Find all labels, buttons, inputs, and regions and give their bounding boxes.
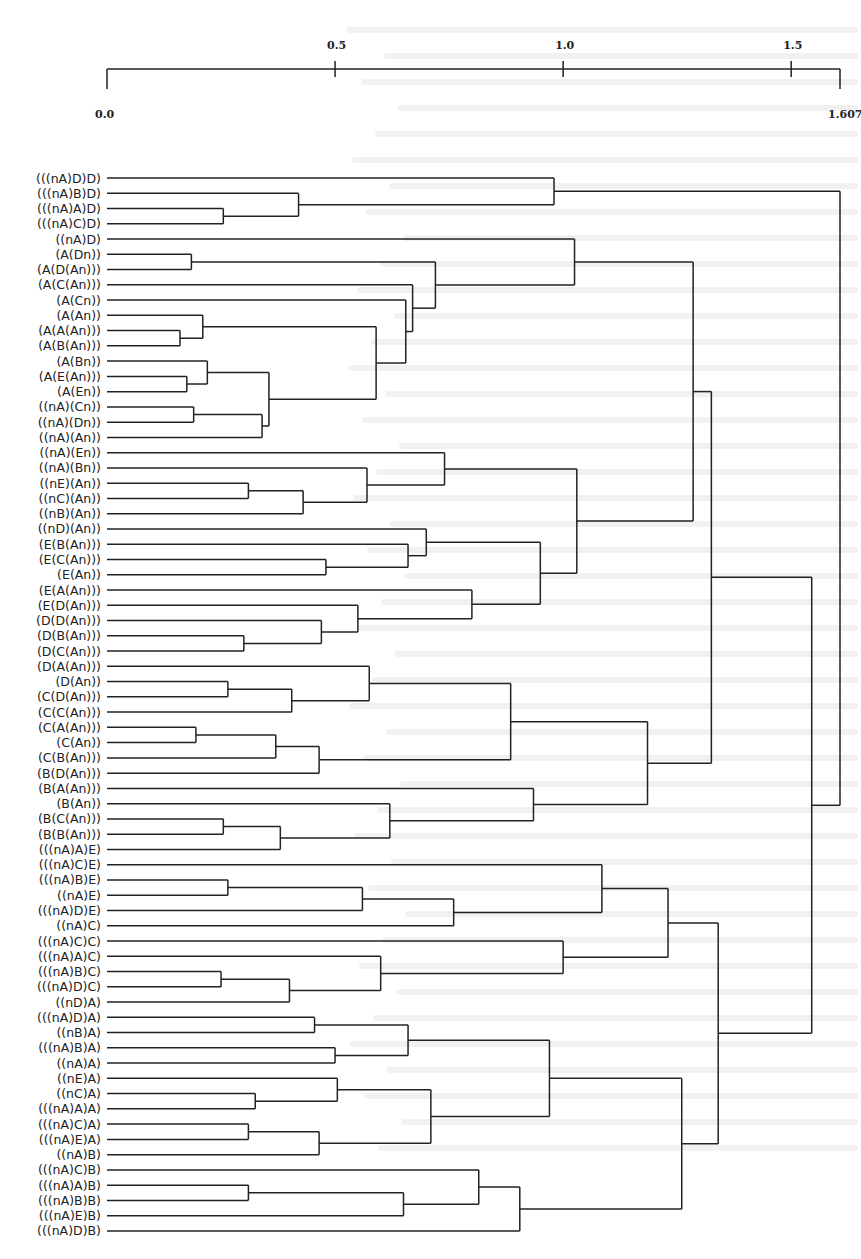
- leaf-label: (B(C(An))): [38, 811, 101, 826]
- leaf-label: (A(A(An))): [38, 323, 101, 338]
- leaf-label: ((nA)(Bn)): [39, 460, 101, 475]
- leaf-label: (A(E(An))): [39, 369, 101, 384]
- leaf-label: ((nC)(An)): [39, 491, 101, 506]
- leaf-labels: (((nA)D)D)(((nA)B)D)(((nA)A)D)(((nA)C)D)…: [36, 171, 101, 1239]
- leaf-label: (((nA)B)B): [38, 1193, 101, 1208]
- leaf-label: (B(A(An))): [38, 781, 101, 796]
- leaf-label: (A(C(An))): [38, 277, 101, 292]
- leaf-label: (((nA)D)A): [37, 1010, 101, 1025]
- leaf-label: (E(B(An))): [39, 537, 101, 552]
- leaf-label: (((nA)C)A): [38, 1117, 101, 1132]
- leaf-label: (((nA)A)B): [38, 1178, 101, 1193]
- leaf-label: (D(B(An))): [37, 628, 101, 643]
- leaf-label: (A(B(An))): [38, 338, 101, 353]
- leaf-label: ((nA)(Cn)): [39, 399, 101, 414]
- axis-tick-label: 0.0: [95, 108, 114, 121]
- leaf-label: (C(C(An))): [38, 705, 101, 720]
- leaf-label: (B(An)): [56, 796, 101, 811]
- leaf-label: (((nA)B)C): [38, 964, 101, 979]
- leaf-label: (A(An)): [56, 308, 101, 323]
- leaf-label: (D(D(An))): [36, 613, 101, 628]
- leaf-label: ((nA)D): [55, 232, 101, 247]
- leaf-label: ((nD)(An)): [38, 521, 101, 536]
- axis-tick-label: 1.607: [828, 108, 861, 121]
- leaf-label: (A(Dn)): [55, 247, 101, 262]
- leaf-label: (D(C(An))): [37, 644, 101, 659]
- leaf-label: (C(B(An))): [38, 750, 101, 765]
- background-bleed-through-text: [350, 30, 855, 1148]
- leaf-label: (B(D(An))): [37, 766, 101, 781]
- leaf-label: (D(An)): [55, 674, 101, 689]
- leaf-label: (((nA)C)D): [37, 216, 101, 231]
- leaf-label: ((nA)C): [56, 918, 101, 933]
- leaf-label: (((nA)E)A): [39, 1132, 101, 1147]
- leaf-label: (((nA)C)E): [39, 857, 101, 872]
- leaf-label: (((nA)C)B): [38, 1162, 101, 1177]
- leaf-label: (((nA)B)D): [37, 186, 101, 201]
- leaf-label: (((nA)D)C): [37, 979, 101, 994]
- axis-tick-label: 1.0: [555, 39, 574, 52]
- leaf-label: (((nA)B)A): [38, 1040, 101, 1055]
- axis-tick-label: 1.5: [783, 39, 802, 52]
- leaf-label: (A(Bn)): [56, 354, 101, 369]
- leaf-label: ((nB)(An)): [39, 506, 101, 521]
- leaf-label: (((nA)E)B): [39, 1208, 101, 1223]
- leaf-label: ((nE)A): [57, 1071, 101, 1086]
- leaf-label: (((nA)A)E): [39, 842, 101, 857]
- leaf-label: (((nA)A)C): [38, 949, 101, 964]
- leaf-label: ((nA)(En)): [39, 445, 101, 460]
- leaf-label: (E(A(An))): [39, 583, 101, 598]
- leaf-label: (C(D(An))): [37, 689, 101, 704]
- leaf-label: (C(An)): [56, 735, 101, 750]
- leaf-label: (((nA)A)D): [37, 201, 101, 216]
- leaf-label: (E(An)): [57, 567, 101, 582]
- leaf-label: (A(D(An))): [37, 262, 101, 277]
- leaf-label: (E(D(An))): [38, 598, 101, 613]
- leaf-label: (D(A(An))): [37, 659, 101, 674]
- leaf-label: (((nA)D)D): [36, 171, 101, 186]
- leaf-label: (A(Cn)): [56, 293, 101, 308]
- leaf-label: ((nA)B): [56, 1147, 101, 1162]
- leaf-label: ((nD)A): [55, 995, 101, 1010]
- leaf-label: ((nE)(An)): [39, 476, 101, 491]
- leaf-label: (((nA)C)C): [38, 934, 101, 949]
- leaf-label: (((nA)B)E): [39, 872, 101, 887]
- leaf-label: (((nA)A)A): [38, 1101, 101, 1116]
- leaf-label: ((nA)E): [57, 888, 101, 903]
- dendrogram-chart: 0.00.51.01.51.607 (((nA)D)D)(((nA)B)D)((…: [0, 0, 861, 1259]
- leaf-label: ((nA)(An)): [39, 430, 101, 445]
- leaf-label: ((nB)A): [56, 1025, 101, 1040]
- leaf-label: (E(C(An))): [39, 552, 101, 567]
- leaf-label: ((nA)A): [56, 1056, 101, 1071]
- leaf-label: (C(A(An))): [38, 720, 101, 735]
- leaf-label: (B(B(An))): [38, 827, 101, 842]
- axis-tick-label: 0.5: [327, 39, 346, 52]
- leaf-label: ((nA)(Dn)): [38, 415, 101, 430]
- leaf-label: (A(En)): [57, 384, 101, 399]
- leaf-label: (((nA)D)B): [37, 1223, 101, 1238]
- leaf-label: (((nA)D)E): [38, 903, 101, 918]
- leaf-label: ((nC)A): [56, 1086, 101, 1101]
